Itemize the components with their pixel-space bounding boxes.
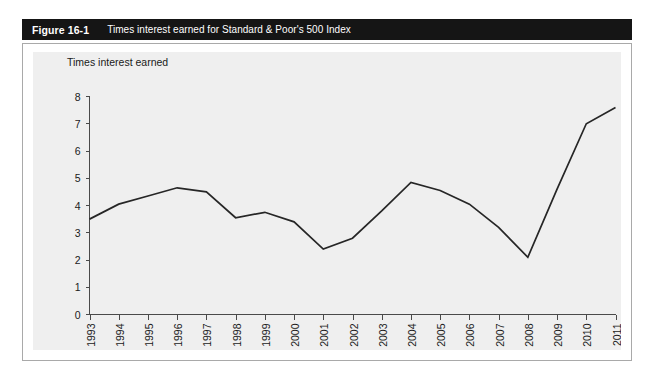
x-tick-label: 2007 (494, 323, 506, 347)
figure-number-label: Figure 16-1 (32, 24, 89, 36)
x-tick-label: 1998 (231, 323, 243, 347)
plot-area: Times interest earned 876543210 19931994… (33, 52, 621, 350)
y-tick-label: 0 (75, 309, 81, 321)
figure-panel: Times interest earned 876543210 19931994… (22, 43, 632, 361)
x-tick-labels: 1993199419951996199719981999200020012002… (85, 323, 622, 347)
x-tick-label: 1999 (260, 323, 272, 347)
x-tick-label: 2004 (406, 323, 418, 347)
x-tick-label: 2008 (523, 323, 535, 347)
x-tick-marks (91, 315, 617, 320)
x-tick-label: 1993 (85, 323, 97, 347)
x-tick-label: 2001 (318, 323, 330, 347)
x-tick-label: 1995 (143, 323, 155, 347)
y-tick-label: 7 (75, 118, 81, 130)
x-axis-group: 1993199419951996199719981999200020012002… (85, 315, 622, 347)
figure-header-bar: Figure 16-1 Times interest earned for St… (22, 19, 632, 40)
x-tick-label: 2005 (435, 323, 447, 347)
y-tick-labels: 876543210 (75, 91, 81, 321)
y-tick-label: 1 (75, 281, 81, 293)
line-chart-svg: 876543210 199319941995199619971998199920… (33, 52, 621, 350)
x-tick-label: 2000 (289, 323, 301, 347)
x-tick-label: 2002 (348, 323, 360, 347)
y-tick-label: 3 (75, 227, 81, 239)
y-tick-label: 5 (75, 172, 81, 184)
y-tick-label: 2 (75, 254, 81, 266)
x-tick-label: 1994 (114, 323, 126, 347)
x-tick-label: 2009 (552, 323, 564, 347)
y-tick-label: 4 (75, 200, 81, 212)
y-tick-marks (86, 97, 90, 315)
x-tick-label: 2003 (377, 323, 389, 347)
x-tick-label: 2011 (611, 323, 622, 346)
x-tick-label: 1997 (201, 323, 213, 347)
x-tick-label: 2010 (581, 323, 593, 347)
figure-container: Figure 16-1 Times interest earned for St… (0, 0, 654, 379)
y-tick-label: 6 (75, 145, 81, 157)
y-tick-label: 8 (75, 91, 81, 103)
y-axis-group: 876543210 (75, 91, 90, 321)
data-series-line (90, 107, 616, 257)
figure-caption-label: Times interest earned for Standard & Poo… (107, 24, 351, 35)
x-tick-label: 2006 (464, 323, 476, 347)
x-tick-label: 1996 (172, 323, 184, 347)
